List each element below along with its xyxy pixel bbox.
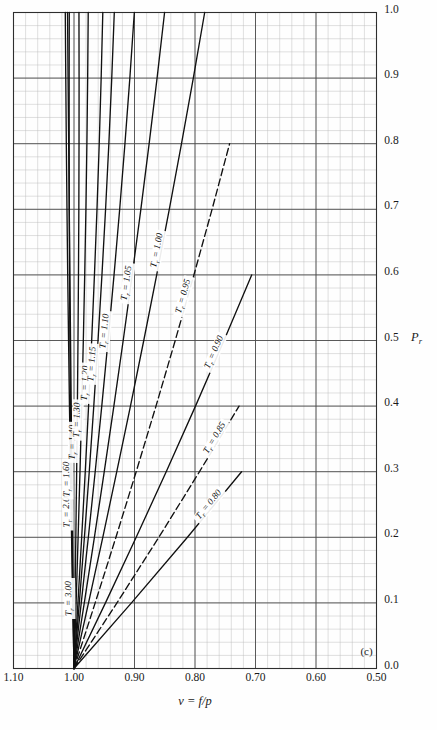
x-tick-label: 0.1 bbox=[384, 592, 399, 604]
y-tick-label: 0.60 bbox=[305, 670, 325, 682]
figure-rotator: Tr = 3.00Tr = 2.00Tr = 1.60Tr = 1.40Tr =… bbox=[0, 0, 437, 730]
y-tick-label: 1.00 bbox=[63, 670, 83, 682]
x-tick-label: 0.8 bbox=[384, 133, 399, 145]
curve-label: Tr = 1.60 bbox=[60, 458, 73, 499]
x-tick-label: 0.4 bbox=[384, 396, 399, 408]
fugacity-coefficient-chart: Tr = 3.00Tr = 2.00Tr = 1.60Tr = 1.40Tr =… bbox=[0, 0, 437, 730]
panel-label: (c) bbox=[360, 644, 373, 657]
x-tick-label: 0.6 bbox=[384, 264, 399, 276]
x-tick-label: 0.2 bbox=[384, 527, 399, 539]
y-tick-label: 0.50 bbox=[366, 670, 386, 682]
figure-root: Tr = 3.00Tr = 2.00Tr = 1.60Tr = 1.40Tr =… bbox=[0, 0, 437, 730]
y-tick-label: 0.70 bbox=[245, 670, 265, 682]
y-tick-label: 1.10 bbox=[3, 670, 23, 682]
curve-label: Tr = 3.00 bbox=[63, 578, 75, 619]
x-tick-label: 0.7 bbox=[384, 199, 399, 211]
chart-canvas: Tr = 3.00Tr = 2.00Tr = 1.60Tr = 1.40Tr =… bbox=[0, 0, 437, 730]
curve-label: Tr = 1.30 bbox=[70, 399, 83, 440]
x-tick-label: 1.0 bbox=[384, 2, 399, 14]
x-tick-label: 0.9 bbox=[384, 68, 399, 80]
x-tick-label: 0.5 bbox=[384, 330, 399, 342]
y-tick-label: 0.80 bbox=[184, 670, 204, 682]
y-tick-label: 0.90 bbox=[124, 670, 144, 682]
x-tick-label: 0.3 bbox=[384, 461, 399, 473]
y-axis-title: ν = f/p bbox=[178, 693, 211, 707]
x-tick-label: 0.0 bbox=[384, 658, 399, 670]
